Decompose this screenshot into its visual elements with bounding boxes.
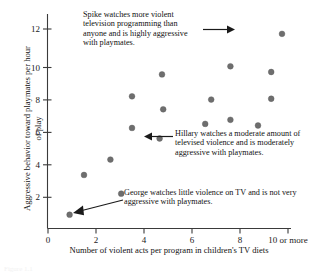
x-axis-ticks — [48, 229, 288, 234]
data-point-spike — [279, 31, 285, 37]
data-point — [129, 93, 135, 99]
data-point — [108, 157, 114, 163]
data-point — [228, 117, 234, 123]
data-point — [202, 121, 208, 127]
x-tick-label: 6 — [190, 235, 195, 245]
x-tick-label: 4 — [142, 235, 147, 245]
annotation-hillary: Hillary watches a moderate amount of tel… — [175, 129, 301, 157]
annotation-arrow-george — [73, 200, 123, 215]
data-point-george — [67, 212, 73, 218]
figure-caption: Figure 1.1 — [4, 265, 33, 273]
x-tick-label: 0 — [46, 235, 51, 245]
data-point — [81, 172, 87, 178]
data-point — [255, 123, 261, 129]
x-axis-label: Number of violent acts per program in ch… — [45, 245, 293, 256]
data-point — [228, 63, 234, 69]
y-tick-label: 12 — [24, 24, 40, 34]
data-point — [159, 72, 165, 78]
data-point — [129, 125, 135, 131]
data-point — [208, 97, 214, 103]
annotation-spike: Spike watches more violent television pr… — [83, 10, 203, 48]
x-tick-label: 2 — [94, 235, 99, 245]
annotation-george: George watches little violence on TV and… — [124, 188, 304, 207]
data-point — [268, 69, 274, 75]
annotation-arrow-spike — [203, 26, 235, 34]
data-point — [268, 96, 274, 102]
scatter-plot-figure: 2 4 6 8 10 12 0 2 4 6 8 10 or more Aggre… — [0, 0, 310, 275]
data-point — [160, 106, 166, 112]
x-tick-label: 8 — [238, 235, 243, 245]
y-axis-label: Aggressive behavior toward playmates per… — [22, 44, 43, 214]
x-tick-label: 10 or more — [268, 235, 308, 245]
